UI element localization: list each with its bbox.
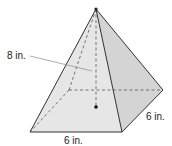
base-front-label: 6 in. bbox=[64, 135, 83, 146]
base-side-label: 6 in. bbox=[146, 111, 165, 122]
apex-point bbox=[94, 7, 97, 10]
height-label: 8 in. bbox=[7, 50, 26, 61]
base-center-point bbox=[94, 105, 98, 109]
pyramid-diagram: 8 in. 6 in. 6 in. bbox=[0, 0, 172, 146]
